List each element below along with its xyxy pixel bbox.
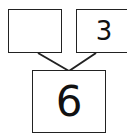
part-left-box[interactable] (8, 9, 62, 53)
right-connector-line (69, 53, 96, 71)
part-right-box: 3 (76, 9, 127, 53)
left-connector-line (38, 53, 69, 71)
whole-value: 6 (56, 77, 83, 126)
whole-box: 6 (32, 70, 106, 133)
part-right-value: 3 (96, 16, 113, 46)
